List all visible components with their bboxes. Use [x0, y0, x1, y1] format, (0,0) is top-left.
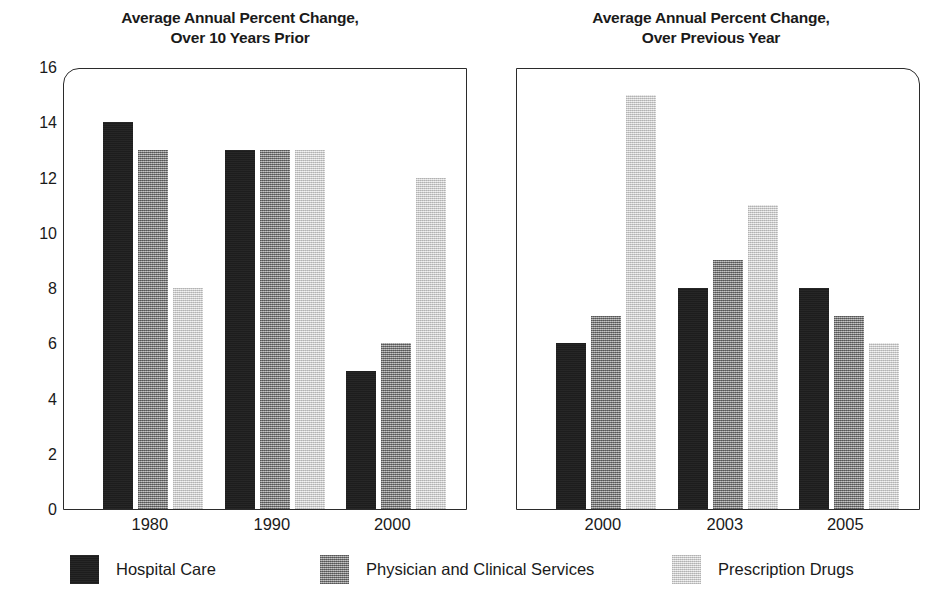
- chart-title-right: Average Annual Percent Change, Over Prev…: [480, 8, 942, 48]
- legend-swatch: [70, 555, 99, 584]
- bar-groups-right: [517, 69, 919, 509]
- bar: [748, 205, 778, 509]
- chart-panel-left: Average Annual Percent Change, Over 10 Y…: [0, 0, 480, 540]
- legend-item: Physician and Clinical Services: [320, 548, 594, 590]
- bar: [678, 288, 708, 509]
- bar-groups-left: [64, 69, 466, 509]
- x-axis-tick-label: 2005: [827, 516, 864, 533]
- bar-group: [225, 69, 320, 509]
- x-axis-tick-label: 2003: [707, 516, 744, 533]
- legend-item: Prescription Drugs: [672, 548, 854, 590]
- bar: [381, 343, 411, 509]
- legend-swatch: [672, 555, 701, 584]
- bar: [225, 150, 255, 509]
- y-axis-tick-label: 16: [23, 60, 57, 76]
- bar: [591, 316, 621, 509]
- bar: [869, 343, 899, 509]
- legend-item: Hospital Care: [70, 548, 216, 590]
- bar: [556, 343, 586, 509]
- x-axis-tick-label: 2000: [585, 516, 622, 533]
- x-axis-tick-label: 2000: [374, 516, 411, 533]
- y-axis-tick-label: 2: [23, 447, 57, 463]
- legend-swatch: [320, 555, 349, 584]
- bar: [626, 95, 656, 509]
- chart-panel-right: Average Annual Percent Change, Over Prev…: [480, 0, 942, 540]
- x-axis-labels-left: 198019902000: [63, 516, 467, 540]
- y-axis-tick-label: 0: [23, 502, 57, 518]
- y-axis-left: 0246810121416: [17, 68, 57, 510]
- bar-group: [346, 69, 441, 509]
- y-axis-tick-label: 10: [23, 226, 57, 242]
- y-axis-tick-label: 8: [23, 281, 57, 297]
- bar: [260, 150, 290, 509]
- y-axis-tick-label: 4: [23, 392, 57, 408]
- x-axis-tick-label: 1980: [132, 516, 169, 533]
- bar: [103, 122, 133, 509]
- bar: [346, 371, 376, 509]
- y-axis-tick-label: 12: [23, 171, 57, 187]
- legend-label: Hospital Care: [116, 561, 216, 578]
- bar: [138, 150, 168, 509]
- chart-title-left-line-2: Over 10 Years Prior: [0, 28, 480, 48]
- bar: [834, 316, 864, 509]
- bar: [173, 288, 203, 509]
- bar-group: [556, 69, 651, 509]
- legend-label: Prescription Drugs: [718, 561, 854, 578]
- chart-title-right-line-2: Over Previous Year: [480, 28, 942, 48]
- bar: [416, 178, 446, 510]
- bar-group: [678, 69, 773, 509]
- chart-title-left: Average Annual Percent Change, Over 10 Y…: [0, 8, 480, 48]
- bar: [295, 150, 325, 509]
- bar-group: [103, 69, 198, 509]
- plot-area-right: [516, 68, 920, 510]
- bar: [799, 288, 829, 509]
- chart-title-right-line-1: Average Annual Percent Change,: [480, 8, 942, 28]
- legend-label: Physician and Clinical Services: [366, 561, 594, 578]
- chart-figure: Average Annual Percent Change, Over 10 Y…: [0, 0, 942, 607]
- bar: [713, 260, 743, 509]
- plot-area-left: [63, 68, 467, 510]
- x-axis-tick-label: 1990: [254, 516, 291, 533]
- bar-group: [799, 69, 894, 509]
- y-axis-tick-label: 6: [23, 336, 57, 352]
- chart-panels: Average Annual Percent Change, Over 10 Y…: [0, 0, 942, 540]
- y-axis-tick-label: 14: [23, 115, 57, 131]
- x-axis-labels-right: 200020032005: [516, 516, 920, 540]
- chart-title-left-line-1: Average Annual Percent Change,: [0, 8, 480, 28]
- chart-legend: Hospital CarePhysician and Clinical Serv…: [0, 548, 942, 590]
